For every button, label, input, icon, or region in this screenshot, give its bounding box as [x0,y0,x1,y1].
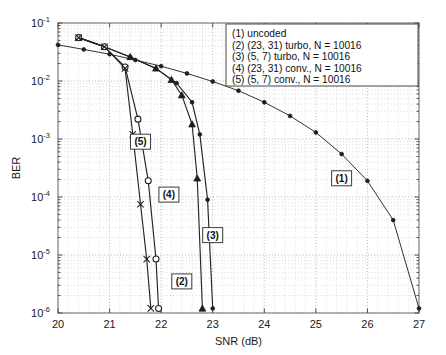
y-tick-label: 10-1 [31,15,50,29]
x-axis-title: SNR (dB) [215,335,262,347]
series-marker-turbo_5_7 [206,198,210,202]
series-marker-uncoded [391,218,395,222]
curve-label-2: (2) [176,276,188,287]
y-tick-exponent: -3 [43,131,50,140]
series-marker-uncoded [159,64,163,68]
x-tick-label: 21 [103,318,115,330]
x-tick-label: 20 [52,318,64,330]
series-marker-turbo_5_7 [211,307,215,311]
chart-svg: 202122232425262710-110-210-310-410-510-6… [0,0,446,355]
curve-label-3: (3) [207,230,219,241]
series-marker-conv_23_31 [156,305,162,311]
x-tick-label: 23 [207,318,219,330]
y-tick-label: 10-2 [31,73,50,87]
x-tick-label: 25 [310,318,322,330]
legend-item-1: (1) uncoded [232,28,287,39]
legend-item-3: (3) (5, 7) turbo, N = 10016 [232,51,350,62]
series-marker-uncoded [288,114,292,118]
series-marker-uncoded [56,43,60,47]
series-marker-uncoded [314,130,318,134]
series-marker-uncoded [211,80,215,84]
series-marker-conv_23_31 [153,256,159,262]
y-tick-exponent: -6 [43,305,50,314]
y-tick-exponent: -5 [43,247,50,256]
y-tick-label: 10-6 [31,305,50,319]
x-tick-label: 27 [413,318,425,330]
y-tick-label: 10-4 [31,189,50,203]
y-tick-exponent: -2 [43,73,50,82]
y-axis-title: BER [10,157,22,180]
series-marker-conv_23_31 [145,178,151,184]
legend-item-2: (2) (23, 31) turbo, N = 10016 [232,40,362,51]
legend-item-5: (5) (5, 7) conv., N = 10016 [232,74,351,85]
series-marker-turbo_5_7 [190,100,194,104]
x-tick-label: 22 [155,318,167,330]
series-marker-turbo_5_7 [175,81,179,85]
series-marker-conv_23_31 [135,116,141,122]
series-marker-turbo_5_7 [128,55,132,59]
series-marker-turbo_5_7 [154,66,158,70]
x-tick-label: 26 [361,318,373,330]
y-tick-exponent: -4 [43,189,50,198]
series-marker-uncoded [417,307,421,311]
series-marker-uncoded [366,179,370,183]
series-marker-uncoded [185,72,189,76]
y-tick-exponent: -1 [43,15,50,24]
curve-label-5: (5) [134,136,146,147]
ber-vs-snr-chart: 202122232425262710-110-210-310-410-510-6… [0,0,446,355]
series-marker-turbo_5_7 [198,133,202,137]
curve-label-4: (4) [163,189,175,200]
curve-label-1: (1) [336,173,348,184]
series-marker-uncoded [262,100,266,104]
x-tick-label: 24 [258,318,270,330]
series-marker-uncoded [82,48,86,52]
y-tick-label: 10-3 [31,131,50,145]
y-tick-label: 10-5 [31,247,50,261]
series-marker-uncoded [340,152,344,156]
series-marker-uncoded [237,89,241,93]
legend-item-4: (4) (23, 31) conv., N = 10016 [232,63,362,74]
